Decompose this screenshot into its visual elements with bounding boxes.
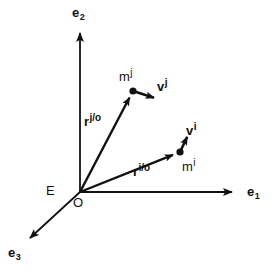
velocity-vector-label-vi-base: v (186, 123, 193, 138)
axis-label-e3-base: e (8, 245, 15, 260)
position-vector-label-rj-superscript: j/o (90, 112, 102, 123)
axis-label-e3-subscript: 3 (16, 252, 21, 262)
velocity-vector-label-vj-superscript: j (165, 77, 168, 88)
axis-label-e3: e3 (8, 246, 21, 262)
velocity-vector-label-vj-base: v (157, 79, 164, 94)
velocity-vector-vi-line (180, 137, 187, 152)
particle-label-mi-superscript: i (193, 157, 195, 168)
velocity-vector-label-vj: vj (157, 78, 168, 93)
position-vector-label-rj-base: r (84, 114, 89, 129)
axis-label-e2: e2 (72, 6, 85, 22)
velocity-vector-vj-line (133, 91, 154, 98)
axis-label-e1-base: e (247, 184, 254, 199)
reference-frame-label-e: E (46, 184, 55, 197)
origin-label-o: O (73, 196, 83, 209)
position-vector-label-ri-superscript: i/o (139, 162, 151, 173)
vector-diagram-figure: e2 e1 e3 E O mj mi rj/o ri/o vj vi (0, 0, 272, 277)
particle-label-mi-base: m (182, 159, 193, 174)
position-vector-ri-line (80, 155, 173, 192)
particle-label-mj-superscript: j (130, 67, 132, 78)
particle-label-mj: mj (119, 68, 133, 83)
velocity-vector-label-vi-superscript: i (194, 121, 197, 132)
axis-label-e2-base: e (72, 5, 79, 20)
position-vector-label-ri: ri/o (133, 163, 150, 178)
axis-label-e1: e1 (247, 185, 260, 201)
position-vector-rj-line (80, 98, 130, 193)
particle-label-mj-base: m (119, 69, 130, 84)
axis-label-e2-subscript: 2 (80, 12, 85, 22)
diagram-canvas (0, 0, 272, 277)
position-vector-label-rj: rj/o (84, 113, 101, 128)
velocity-vector-label-vi: vi (186, 122, 197, 137)
particle-label-mi: mi (182, 158, 196, 173)
axis-label-e1-subscript: 1 (255, 191, 260, 201)
position-vector-label-ri-base: r (133, 164, 138, 179)
